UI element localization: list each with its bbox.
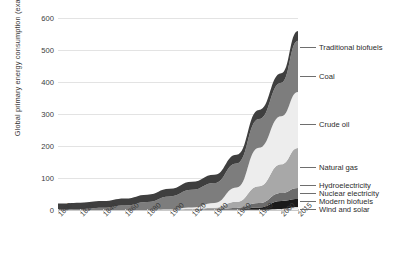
y-tick-label: 400 (41, 78, 54, 87)
series-label-coal: Coal (319, 71, 335, 80)
x-axis-tick-labels: 1800182018401860188019001920194019601980… (58, 212, 298, 254)
series-label-crude-oil: Crude oil (319, 119, 349, 128)
series-label-traditional-biofuels: Traditional biofuels (319, 42, 382, 51)
y-axis-tick-labels: 0100200300400500600 (18, 0, 54, 254)
y-tick-label: 500 (41, 46, 54, 55)
callout-leader-line (300, 201, 316, 202)
callout-leader-line (300, 76, 316, 77)
y-tick-label: 0 (50, 206, 54, 215)
callout-leader-line (300, 47, 316, 48)
plot-area (58, 18, 298, 210)
series-label-wind-and-solar: Wind and solar (319, 204, 370, 213)
energy-consumption-area-chart: Global primary energy consumption (exajo… (0, 0, 414, 254)
y-tick-label: 200 (41, 142, 54, 151)
callout-leader-line (300, 167, 316, 168)
stacked-area-series (58, 18, 298, 210)
y-tick-label: 100 (41, 174, 54, 183)
y-tick-label: 600 (41, 14, 54, 23)
y-tick-label: 300 (41, 110, 54, 119)
callout-leader-line (300, 209, 316, 210)
series-label-natural-gas: Natural gas (319, 162, 358, 171)
callout-leader-line (300, 124, 316, 125)
callout-leader-line (300, 185, 316, 186)
callout-leader-line (300, 193, 316, 194)
